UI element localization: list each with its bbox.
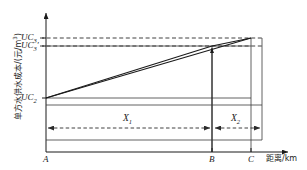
y-tick-label-uc3-prime-row: UC3′ [21, 41, 39, 52]
segment-label-x2-sub: 2 [237, 118, 240, 125]
y-tick-label-uc3p-prime: ′ [37, 40, 39, 50]
y-tick-label-uc2-base: UC [21, 92, 34, 102]
x-point-label-b: B [209, 155, 215, 164]
cost-line-a-to-b [46, 46, 212, 98]
y-tick-label-uc2: UC2 [21, 93, 37, 104]
x-point-label-a: A [43, 155, 49, 164]
cost-line-b-to-c [212, 38, 251, 46]
segment-label-x2: X2 [231, 114, 240, 125]
cost-distance-diagram: 单方水供水成本/(元/m3) UC3 UC3′ UC2 A B C 距离/km … [0, 0, 307, 170]
x-point-label-c: C [248, 155, 254, 164]
segment-label-x1-sub: 1 [129, 118, 132, 125]
y-tick-label-uc3p-base: UC [21, 40, 34, 50]
y-axis-title-superscript: 3 [12, 36, 18, 40]
diagram-canvas [0, 0, 307, 170]
cost-line-a-to-c [46, 38, 251, 98]
x-axis-title: 距离/km [266, 155, 297, 163]
y-tick-label-uc2-sub: 2 [34, 97, 37, 104]
segment-label-x1: X1 [123, 114, 132, 125]
